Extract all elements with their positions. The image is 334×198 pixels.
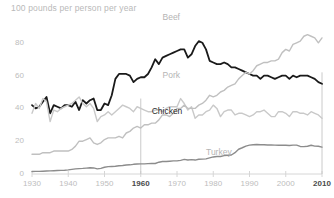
series-label-beef: Beef [163, 12, 181, 22]
plot-area [0, 0, 334, 198]
x-tick-1990: 1990 [230, 179, 270, 188]
series-paths [32, 35, 322, 172]
series-line-turkey [32, 144, 322, 171]
x-tick-1970: 1970 [157, 179, 197, 188]
meat-consumption-chart: 100 pounds per person per year 020406080… [0, 0, 334, 198]
x-tick-2000: 2000 [266, 179, 306, 188]
y-tick-0: 0 [2, 169, 24, 178]
x-tick-1980: 1980 [193, 179, 233, 188]
y-tick-20: 20 [2, 136, 24, 145]
series-label-chicken: Chicken [152, 106, 183, 116]
x-tick-2010: 2010 [302, 179, 334, 188]
y-tick-60: 60 [2, 71, 24, 80]
x-tick-1930: 1930 [12, 179, 52, 188]
x-tick-1940: 1940 [48, 179, 88, 188]
series-label-pork: Pork [163, 70, 180, 80]
x-tick-1950: 1950 [85, 179, 125, 188]
series-label-turkey: Turkey [206, 147, 232, 157]
y-tick-80: 80 [2, 38, 24, 47]
marker-lines [141, 72, 322, 174]
x-tick-1960: 1960 [121, 179, 161, 188]
y-tick-40: 40 [2, 103, 24, 112]
series-line-chicken [32, 35, 322, 155]
